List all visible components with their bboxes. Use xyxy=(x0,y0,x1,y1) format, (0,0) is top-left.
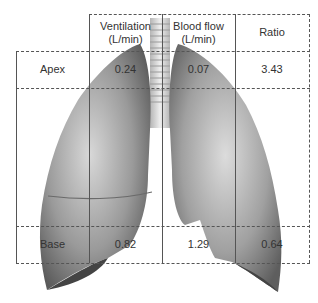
column-header-blood-flow: Blood flow (L/min) xyxy=(162,14,235,51)
header-line1: Blood flow xyxy=(173,20,224,33)
row-label-apex: Apex xyxy=(16,51,89,88)
apex-ratio: 3.43 xyxy=(235,51,309,88)
base-ratio: 0.64 xyxy=(235,226,309,263)
grid-line-right xyxy=(309,14,310,263)
grid-line-bottom xyxy=(16,263,310,264)
apex-blood-flow: 0.07 xyxy=(162,51,235,88)
row-label-base: Base xyxy=(16,226,89,263)
header-line2: (L/min) xyxy=(181,33,215,46)
header-line1: Ventilation xyxy=(100,20,151,33)
header-line2: (L/min) xyxy=(108,33,142,46)
base-ventilation: 0.82 xyxy=(89,226,162,263)
ventilation-perfusion-diagram: Ventilation (L/min) Blood flow (L/min) R… xyxy=(0,0,318,303)
header-line1: Ratio xyxy=(259,26,285,39)
apex-ventilation: 0.24 xyxy=(89,51,162,88)
base-blood-flow: 1.29 xyxy=(162,226,235,263)
grid-line-apex-bottom xyxy=(16,88,310,89)
column-header-ventilation: Ventilation (L/min) xyxy=(89,14,162,51)
column-header-ratio: Ratio xyxy=(235,14,309,51)
